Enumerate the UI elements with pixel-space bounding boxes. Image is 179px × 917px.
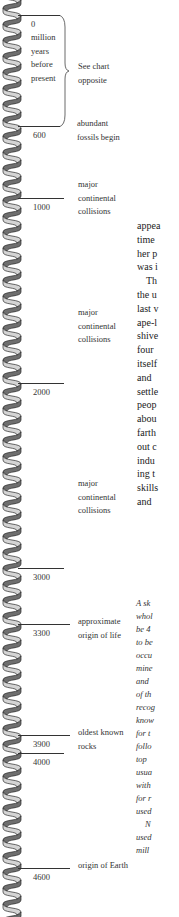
body-text-line: itself (137, 357, 179, 371)
caption-text-line: usua (136, 766, 179, 779)
event-label-line: collisions (78, 504, 116, 518)
body-text-line: was i (137, 260, 179, 274)
caption-text-line: for r (136, 792, 179, 805)
tick-line (18, 126, 60, 127)
tick-line (18, 753, 64, 754)
event-label: majorcontinentalcollisions (78, 178, 116, 219)
year-label: 600 (33, 130, 46, 140)
brace-note-line: See chart (78, 60, 109, 74)
event-label: origin of Earth (78, 859, 128, 873)
body-text-line: and (137, 495, 179, 509)
tick-line (18, 383, 64, 384)
caption-text-line: follo (136, 740, 179, 753)
year-label: 4600 (33, 872, 50, 882)
year-label: 3000 (33, 572, 50, 582)
caption-text-line: of th (136, 688, 179, 701)
body-text-line: settle (137, 385, 179, 399)
body-text-line: farth (137, 426, 179, 440)
caption-text-line: and (136, 675, 179, 688)
body-text-line: skills (137, 481, 179, 495)
tick-line (18, 198, 64, 199)
event-label-line: major (78, 178, 116, 192)
tick-line (18, 868, 70, 869)
body-text-line: out c (137, 440, 179, 454)
caption-text-line: mill (136, 844, 179, 857)
unit-label-line: years (31, 45, 56, 59)
year-label: 4000 (33, 757, 50, 767)
caption-text-line: with (136, 779, 179, 792)
caption-text-line: whol (136, 610, 179, 623)
body-text-line: indu (137, 454, 179, 468)
event-label-line: collisions (78, 205, 116, 219)
event-label-line: continental (78, 491, 116, 505)
event-label-line: origin of Earth (78, 859, 128, 873)
year-label: 3900 (33, 739, 50, 749)
body-text-line: time (137, 233, 179, 247)
event-label-line: origin of life (78, 629, 121, 643)
year-label: 2000 (33, 387, 50, 397)
brace-note: See chartopposite (78, 60, 109, 87)
body-text-line: her p (137, 247, 179, 261)
caption-text-line: occu (136, 649, 179, 662)
event-label-line: continental (78, 192, 116, 206)
event-label-line: approximate (78, 615, 121, 629)
event-label-line: rocks (78, 740, 124, 754)
brace-icon (58, 15, 70, 127)
event-label-line: collisions (78, 333, 116, 347)
caption-text-line: know (136, 714, 179, 727)
event-label: oldest knownrocks (78, 726, 124, 753)
body-text-line: appea (137, 219, 179, 233)
unit-label: millionyearsbeforepresent (31, 31, 56, 85)
caption-text-line: recog (136, 701, 179, 714)
caption-text-line: used (136, 805, 179, 818)
tick-line (18, 568, 64, 569)
body-text-line: and (137, 371, 179, 385)
unit-label-line: before (31, 58, 56, 72)
event-label: majorcontinentalcollisions (78, 306, 116, 347)
body-text-line: ing t (137, 467, 179, 481)
tick-line (18, 735, 70, 736)
dna-helix-icon (0, 0, 26, 917)
tick-line (18, 624, 70, 625)
event-label-line: major (78, 306, 116, 320)
event-label-line: continental (78, 320, 116, 334)
body-text-line: Th (137, 274, 179, 288)
caption-text-line: top (136, 753, 179, 766)
event-label: approximateorigin of life (78, 615, 121, 642)
body-text-line: shive (137, 329, 179, 343)
body-text-line: ape-l (137, 316, 179, 330)
caption-text-line: be 4 (136, 623, 179, 636)
body-text-column: appeatimeher pwas iThthe ulast vape-lshi… (137, 219, 179, 509)
body-text-line: the u (137, 288, 179, 302)
caption-text-line: used (136, 831, 179, 844)
event-label-line: major (78, 477, 116, 491)
event-label: majorcontinentalcollisions (78, 477, 116, 518)
caption-text-line: N (136, 818, 179, 831)
body-text-line: four (137, 343, 179, 357)
event-label-line: oldest known (78, 726, 124, 740)
caption-text-column: A skwholbe 4to beoccumineandof threcogkn… (136, 597, 179, 857)
unit-label-line: present (31, 72, 56, 86)
caption-text-line: A sk (136, 597, 179, 610)
body-text-line: peop (137, 398, 179, 412)
year-label: 0 (31, 19, 35, 29)
year-label: 1000 (33, 202, 50, 212)
unit-label-line: million (31, 31, 56, 45)
event-label: abundantfossils begin (77, 117, 120, 144)
caption-text-line: for t (136, 727, 179, 740)
brace-note-line: opposite (78, 74, 109, 88)
tick-line (18, 15, 60, 16)
event-label-line: abundant (77, 117, 120, 131)
caption-text-line: mine (136, 662, 179, 675)
event-label-line: fossils begin (77, 131, 120, 145)
body-text-line: last v (137, 302, 179, 316)
year-label: 3300 (33, 628, 50, 638)
body-text-line: abou (137, 412, 179, 426)
caption-text-line: to be (136, 636, 179, 649)
